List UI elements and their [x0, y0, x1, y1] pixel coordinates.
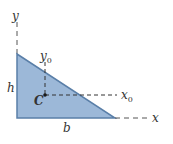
x-axis-label: x	[152, 111, 159, 125]
centroid-label: C	[34, 94, 44, 108]
triangle-area	[17, 54, 115, 118]
triangle-centroid-diagram: y x y0 x0 h b C	[0, 0, 173, 144]
base-label: b	[63, 121, 71, 135]
height-label: h	[7, 81, 15, 95]
y0-axis-label: y0	[39, 49, 52, 65]
x0-axis-label: x0	[121, 88, 133, 104]
y-axis-label: y	[11, 9, 19, 23]
centroid-point	[43, 93, 47, 97]
